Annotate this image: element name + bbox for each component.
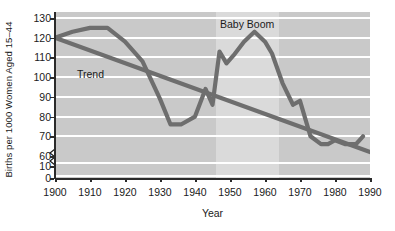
x-tick-mark [370, 178, 372, 182]
y-axis-line [54, 12, 56, 179]
y-tick-label: 70 [25, 131, 51, 142]
y-tick-mark [50, 178, 54, 180]
y-tick-mark [50, 18, 54, 20]
y-tick-mark [50, 136, 54, 138]
x-axis-title: Year [55, 207, 370, 219]
y-tick-label: 90 [25, 92, 51, 103]
y-axis-title: Births per 1000 Women Aged 15–44 [3, 7, 17, 192]
y-tick-mark [50, 156, 54, 158]
x-tick-mark [90, 178, 92, 182]
y-tick-label: 130 [25, 13, 51, 24]
birth-rate-line-chart: Births per 1000 Women Aged 15–44 0106070… [0, 0, 395, 231]
x-tick-label: 1980 [315, 186, 355, 198]
x-tick-label: 1910 [70, 186, 110, 198]
x-tick-mark [265, 178, 267, 182]
y-tick-mark [50, 77, 54, 79]
x-tick-mark [300, 178, 302, 182]
y-tick-label: 80 [25, 112, 51, 123]
x-tick-mark [55, 178, 57, 182]
y-tick-label: 120 [25, 33, 51, 44]
x-tick-label: 1960 [245, 186, 285, 198]
x-tick-mark [230, 178, 232, 182]
y-tick-mark [50, 117, 54, 119]
y-tick-mark [50, 166, 54, 168]
x-tick-label: 1990 [350, 186, 390, 198]
baby-boom-annotation: Baby Boom [220, 18, 274, 30]
x-tick-label: 1920 [105, 186, 145, 198]
y-tick-label: 0 [25, 173, 51, 184]
y-tick-label: 110 [25, 52, 51, 63]
x-tick-mark [335, 178, 337, 182]
x-axis-line [55, 178, 370, 180]
birth-rate-line [55, 28, 363, 144]
x-tick-label: 1900 [35, 186, 75, 198]
x-tick-label: 1930 [140, 186, 180, 198]
x-tick-label: 1970 [280, 186, 320, 198]
x-tick-mark [125, 178, 127, 182]
x-tick-label: 1940 [175, 186, 215, 198]
y-tick-mark [50, 97, 54, 99]
x-tick-mark [195, 178, 197, 182]
x-tick-label: 1950 [210, 186, 250, 198]
trend-annotation: Trend [77, 68, 104, 80]
plot-area: Trend Baby Boom [55, 12, 370, 178]
x-tick-mark [160, 178, 162, 182]
y-tick-label: 100 [25, 72, 51, 83]
y-tick-mark [50, 38, 54, 40]
data-lines [55, 12, 370, 178]
y-tick-mark [50, 57, 54, 59]
